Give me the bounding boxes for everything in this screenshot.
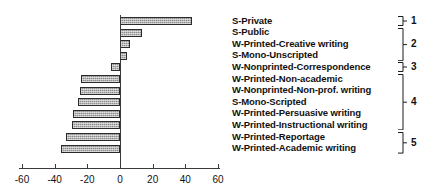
axis-tick-label: 40	[180, 174, 191, 185]
group-number: 3	[411, 61, 417, 72]
bar	[111, 63, 120, 71]
group-bracket	[398, 16, 409, 26]
axis-tick	[87, 164, 88, 168]
bar	[81, 75, 120, 83]
bar	[72, 121, 120, 129]
axis-tick	[55, 164, 56, 168]
axis-tick-label: -40	[47, 174, 61, 185]
group-bracket	[398, 74, 409, 130]
group-number: 1	[411, 15, 417, 26]
group-bracket	[398, 62, 409, 72]
chart-container: -60-40-200204060 S-PrivateS-PublicW-Prin…	[0, 0, 426, 193]
category-label: S-Mono-Unscripted	[232, 49, 318, 60]
category-label: W-Nonprinted-Correspondence	[232, 61, 371, 72]
group-number: 4	[411, 96, 417, 107]
group-bracket	[398, 28, 409, 61]
category-label: W-Printed-Non-academic	[232, 73, 343, 84]
category-label: W-Nonprinted-Non-prof. writing	[232, 84, 371, 95]
axis-tick-label: -60	[15, 174, 29, 185]
axis-tick	[120, 164, 121, 168]
category-label: W-Printed-Reportage	[232, 131, 325, 142]
axis-tick-label: 60	[212, 174, 223, 185]
axis-tick	[218, 164, 219, 168]
axis-tick-label: -20	[80, 174, 94, 185]
zero-line	[120, 15, 121, 168]
axis-tick-label: 0	[117, 174, 123, 185]
bar	[66, 133, 120, 141]
axis-tick-label: 20	[147, 174, 158, 185]
axis-line	[19, 168, 220, 169]
bar	[120, 29, 142, 37]
bar	[120, 17, 192, 25]
group-bracket	[398, 132, 409, 154]
axis-tick	[22, 164, 23, 168]
category-label: W-Printed-Instructional writing	[232, 119, 368, 130]
plot-area: -60-40-200204060 S-PrivateS-PublicW-Prin…	[0, 0, 426, 193]
axis-tick	[153, 164, 154, 168]
category-label: S-Private	[232, 15, 272, 26]
category-label: S-Public	[232, 26, 269, 37]
category-label: W-Printed-Persuasive writing	[232, 107, 361, 118]
bar	[78, 98, 120, 106]
category-label: W-Printed-Creative writing	[232, 38, 349, 49]
axis-tick	[185, 164, 186, 168]
group-number: 2	[411, 38, 417, 49]
category-label: S-Mono-Scripted	[232, 96, 307, 107]
bar	[120, 40, 130, 48]
group-number: 5	[411, 137, 417, 148]
bar	[73, 110, 120, 118]
bar	[61, 145, 120, 153]
bar	[80, 87, 120, 95]
category-label: W-Printed-Academic writing	[232, 142, 356, 153]
bar	[120, 52, 127, 60]
